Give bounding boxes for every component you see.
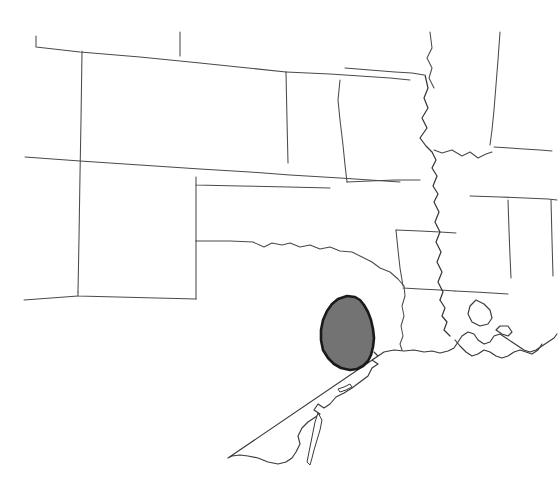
map-canvas bbox=[0, 0, 558, 485]
distribution-range-map bbox=[0, 0, 558, 485]
shaded-distribution-area bbox=[321, 296, 374, 370]
range-layer bbox=[321, 296, 374, 370]
map-background bbox=[0, 0, 558, 485]
